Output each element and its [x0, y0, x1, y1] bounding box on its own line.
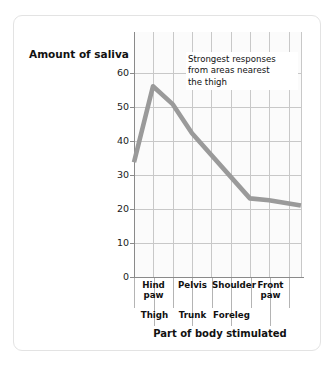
x-label-line-2: paw — [251, 290, 290, 300]
x-label-line-1: Hind — [134, 280, 173, 290]
series-polyline — [134, 86, 301, 205]
x-label-foreleg: Foreleg — [212, 310, 251, 320]
x-label-line-1: Foreleg — [212, 310, 251, 320]
x-label-pelvis: Pelvis — [173, 280, 212, 290]
x-label-line-1: Trunk — [173, 310, 212, 320]
annotation-line-3: the thigh — [188, 77, 295, 88]
x-label-thigh: Thigh — [135, 310, 174, 320]
x-label-line-1: Pelvis — [173, 280, 212, 290]
x-label-trunk: Trunk — [173, 310, 212, 320]
y-tick-label: 10 — [99, 238, 129, 248]
x-label-line-1: Front — [251, 280, 290, 290]
y-tick-label: 60 — [99, 68, 129, 78]
x-label-front-paw: Front paw — [251, 280, 290, 301]
x-label-line-1: Shoulder — [212, 280, 251, 290]
x-axis-title: Part of body stimulated — [134, 328, 306, 339]
y-tick-label: 40 — [99, 136, 129, 146]
y-tick-label: 20 — [99, 204, 129, 214]
x-label-hind-paw: Hind paw — [134, 280, 173, 301]
x-label-line-2: paw — [134, 290, 173, 300]
annotation-callout: Strongest responses from areas nearest t… — [186, 52, 298, 90]
x-label-line-1: Thigh — [135, 310, 174, 320]
y-tick-label: 30 — [99, 170, 129, 180]
y-tick-labels: 60 50 40 30 20 10 0 — [96, 16, 129, 352]
annotation-line-1: Strongest responses — [188, 54, 295, 65]
y-tick-label: 50 — [99, 102, 129, 112]
y-tick-label: 0 — [99, 272, 129, 282]
annotation-line-2: from areas nearest — [188, 65, 295, 76]
chart-card: Amount of saliva 60 50 40 30 — [13, 15, 321, 351]
x-label-shoulder: Shoulder — [212, 280, 251, 290]
